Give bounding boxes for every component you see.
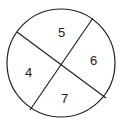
divided-circle-diagram: 5 6 7 4 <box>0 0 122 126</box>
region-label-bottom: 7 <box>61 91 68 106</box>
region-label-left: 4 <box>25 65 32 80</box>
region-label-top: 5 <box>58 25 65 40</box>
region-label-right: 6 <box>90 53 97 68</box>
